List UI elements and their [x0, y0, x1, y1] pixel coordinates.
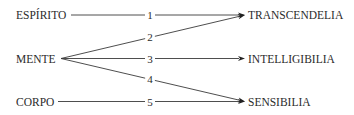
node-sensibilia: SENSIBILIA: [248, 96, 311, 108]
edge-label-1: 1: [147, 9, 153, 21]
edge-label-2: 2: [147, 31, 153, 43]
edge-segment: [155, 80, 239, 100]
node-intelligibilia: INTELLIGIBILIA: [248, 53, 336, 65]
edge-mente-intelligibilia: 3: [61, 53, 245, 65]
node-mente: MENTE: [16, 53, 56, 65]
edge-label-5: 5: [147, 96, 153, 108]
edge-segment: [61, 39, 145, 59]
node-corpo: CORPO: [16, 96, 54, 108]
edge-mente-sensibilia: 4: [61, 59, 245, 103]
edge-corpo-sensibilia: 5: [58, 96, 245, 108]
edge-mente-transcendelia: 2: [61, 14, 245, 58]
edge-espirito-transcendelia: 1: [71, 9, 245, 21]
edges-layer: 12345: [58, 9, 245, 108]
edge-label-3: 3: [147, 53, 153, 65]
arrowhead-icon: [238, 56, 245, 61]
consciousness-levels-diagram: 12345 ESPÍRITO MENTE CORPO TRANSCENDELIA…: [0, 0, 354, 115]
node-transcendelia: TRANSCENDELIA: [248, 9, 344, 21]
edge-segment: [155, 16, 239, 36]
node-espirito: ESPÍRITO: [16, 8, 66, 21]
edge-segment: [61, 59, 145, 79]
edge-label-4: 4: [147, 73, 153, 85]
